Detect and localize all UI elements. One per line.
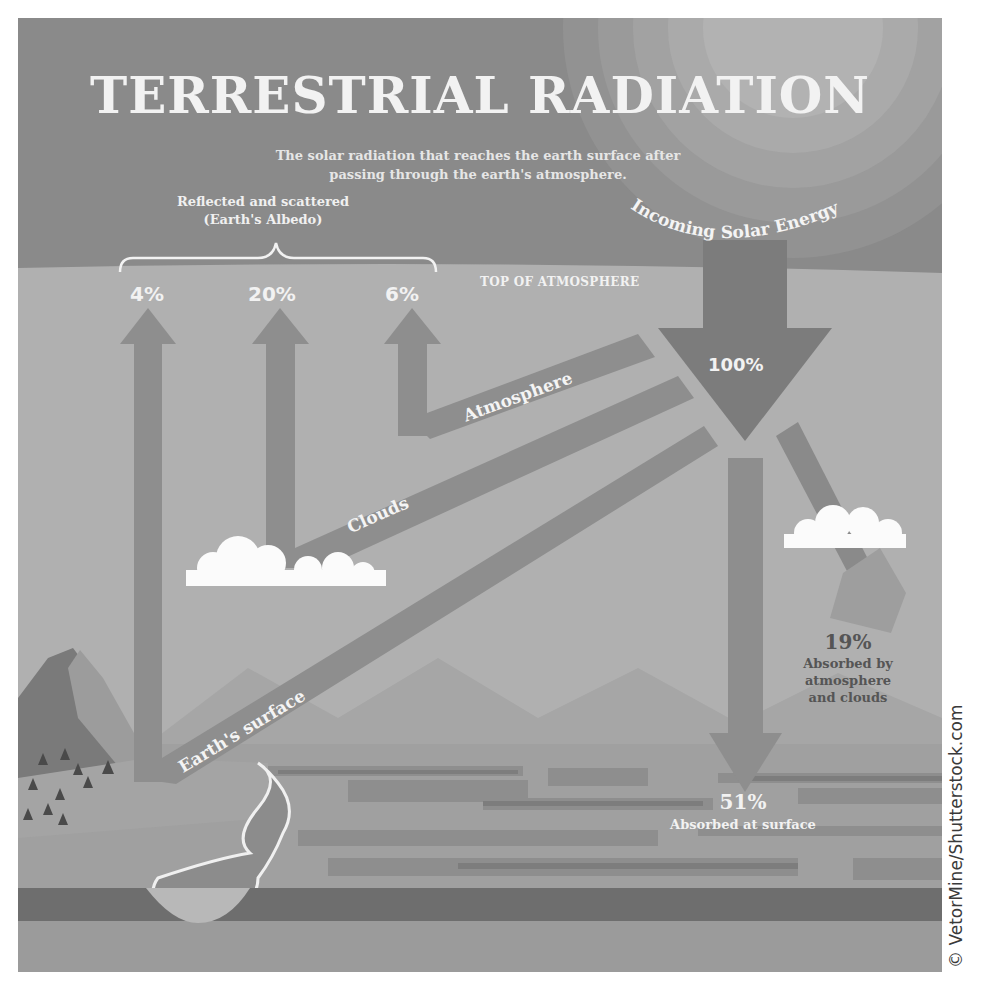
percent-clouds: 20% xyxy=(248,282,296,306)
page-title: TERRESTRIAL RADIATION xyxy=(18,66,942,125)
arrow-atmosphere xyxy=(398,344,427,436)
diagram-canvas: Incoming Solar Energy TERRESTRIAL RADIAT… xyxy=(18,18,942,972)
percent-absorbed-surface: 51% xyxy=(668,790,818,814)
arrow-earth-surface xyxy=(134,344,162,782)
percent-atmosphere: 6% xyxy=(385,282,419,306)
subtitle: The solar radiation that reaches the ear… xyxy=(198,146,758,184)
ground-bottom xyxy=(18,921,942,972)
percent-incoming: 100% xyxy=(708,354,764,375)
percent-earth-surface: 4% xyxy=(130,282,164,306)
arrow-clouds xyxy=(266,344,295,568)
watermark: © VetorMine/Shutterstock.com xyxy=(946,704,966,968)
absorbed-surface-label: Absorbed at surface xyxy=(648,817,838,832)
percent-absorbed-atmosphere: 19% xyxy=(778,630,918,654)
top-of-atmosphere-label: TOP OF ATMOSPHERE xyxy=(480,275,639,289)
albedo-label: Reflected and scattered (Earth's Albedo) xyxy=(158,193,368,229)
absorbed-atmosphere-label: Absorbed by atmosphere and clouds xyxy=(778,655,918,706)
